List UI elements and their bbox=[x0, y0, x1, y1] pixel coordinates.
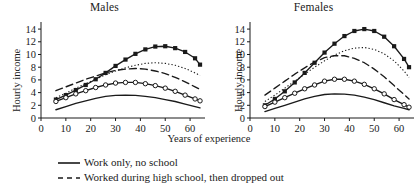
legend-item-1: Worked during high school, then dropped … bbox=[58, 170, 418, 185]
line-solid-swatch-icon bbox=[58, 158, 80, 168]
y-axis-label-females: Hourly income bbox=[233, 49, 244, 112]
x-axis-label: Years of experience bbox=[0, 133, 418, 144]
svg-text:8: 8 bbox=[31, 62, 36, 73]
svg-text:4: 4 bbox=[31, 87, 37, 98]
svg-text:6: 6 bbox=[31, 74, 36, 85]
line-dashed-swatch-icon bbox=[58, 173, 80, 183]
svg-text:12: 12 bbox=[26, 36, 37, 47]
figure-chart-two-panel: Males 024681012140102030405060 Females 0… bbox=[0, 0, 418, 186]
svg-text:12: 12 bbox=[235, 36, 246, 47]
svg-text:14: 14 bbox=[26, 24, 37, 35]
svg-text:14: 14 bbox=[235, 24, 246, 35]
svg-text:0: 0 bbox=[31, 113, 36, 124]
y-axis-label-males: Hourly income bbox=[11, 49, 22, 112]
svg-text:2: 2 bbox=[31, 100, 36, 111]
legend: Work only, no school Worked during high … bbox=[58, 155, 418, 185]
legend-item-0: Work only, no school bbox=[58, 155, 418, 170]
panel-males: Males 024681012140102030405060 bbox=[0, 0, 209, 150]
svg-text:0: 0 bbox=[240, 113, 245, 124]
svg-text:10: 10 bbox=[26, 49, 37, 60]
legend-label-1: Worked during high school, then dropped … bbox=[84, 171, 284, 184]
legend-label-0: Work only, no school bbox=[84, 156, 178, 169]
plot-area-males: 024681012140102030405060 bbox=[0, 0, 209, 150]
